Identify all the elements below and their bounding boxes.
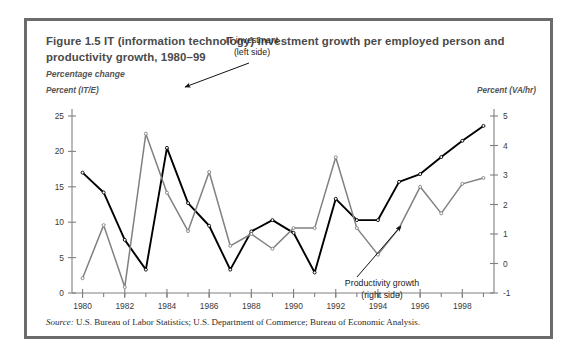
annotation-productivity-line1: Productivity growth bbox=[345, 278, 419, 288]
chart-render-group: 0510152025-10123451980198219841986198819… bbox=[55, 35, 511, 311]
left-axis-tick-label: 10 bbox=[55, 217, 65, 227]
data-point bbox=[461, 139, 464, 142]
figure-container: Figure 1.5 IT (information technology) i… bbox=[24, 18, 553, 339]
data-point bbox=[313, 271, 316, 274]
data-point bbox=[123, 286, 126, 289]
right-axis-tick-label: 5 bbox=[503, 111, 508, 121]
data-point bbox=[81, 277, 84, 280]
data-point bbox=[165, 191, 168, 194]
data-point bbox=[250, 233, 253, 236]
x-axis-tick-label: 1986 bbox=[200, 301, 219, 311]
data-point bbox=[355, 219, 358, 222]
annotation-arrow-productivity bbox=[357, 226, 401, 277]
data-point bbox=[461, 182, 464, 185]
annotation-productivity-line2: (right side) bbox=[361, 290, 403, 300]
data-point bbox=[187, 230, 190, 233]
data-point bbox=[355, 227, 358, 230]
left-axis-tick-label: 15 bbox=[55, 182, 65, 192]
data-point bbox=[419, 185, 422, 188]
x-axis-tick-label: 1982 bbox=[115, 301, 134, 311]
left-axis-tick-label: 0 bbox=[59, 288, 64, 298]
data-point bbox=[165, 146, 168, 149]
x-axis-tick-label: 1996 bbox=[411, 301, 430, 311]
annotation-it-investment-line2: (left side) bbox=[234, 47, 270, 57]
data-point bbox=[313, 227, 316, 230]
x-axis-tick-label: 1994 bbox=[369, 301, 388, 311]
data-point bbox=[229, 244, 232, 247]
right-axis-tick-label: 2 bbox=[503, 200, 508, 210]
data-point bbox=[229, 268, 232, 271]
annotation-arrow-it-investment bbox=[185, 63, 249, 87]
data-point bbox=[208, 171, 211, 174]
data-point bbox=[81, 171, 84, 174]
source-label: Source: bbox=[46, 317, 74, 327]
left-axis-tick-label: 20 bbox=[55, 146, 65, 156]
data-point bbox=[376, 219, 379, 222]
data-point bbox=[123, 238, 126, 241]
data-point bbox=[334, 197, 337, 200]
x-axis-tick-label: 1984 bbox=[158, 301, 177, 311]
data-point bbox=[292, 227, 295, 230]
source-note: Source: U.S. Bureau of Labor Statistics;… bbox=[46, 317, 420, 327]
left-axis-tick-label: 25 bbox=[55, 111, 65, 121]
x-axis-tick-label: 1980 bbox=[73, 301, 92, 311]
data-point bbox=[440, 156, 443, 159]
data-line-it-investment bbox=[83, 126, 484, 273]
data-point bbox=[292, 231, 295, 234]
left-axis-tick-label: 5 bbox=[59, 253, 64, 263]
data-point bbox=[144, 268, 147, 271]
data-point bbox=[440, 212, 443, 215]
line-chart-plot: 0510152025-10123451980198219841986198819… bbox=[27, 21, 550, 336]
right-axis-tick-label: -1 bbox=[503, 288, 511, 298]
data-point bbox=[334, 156, 337, 159]
data-point bbox=[271, 247, 274, 250]
x-axis-tick-label: 1992 bbox=[326, 301, 345, 311]
x-axis-tick-label: 1998 bbox=[453, 301, 472, 311]
data-point bbox=[208, 224, 211, 227]
right-axis-tick-label: 0 bbox=[503, 259, 508, 269]
right-axis-tick-label: 4 bbox=[503, 141, 508, 151]
data-point bbox=[482, 176, 485, 179]
data-point bbox=[419, 173, 422, 176]
data-point bbox=[482, 124, 485, 127]
data-point bbox=[144, 132, 147, 135]
source-body: U.S. Bureau of Labor Statistics; U.S. De… bbox=[74, 317, 420, 327]
x-axis-tick-label: 1990 bbox=[284, 301, 303, 311]
data-point bbox=[398, 180, 401, 183]
data-point bbox=[187, 202, 190, 205]
x-axis-tick-label: 1988 bbox=[242, 301, 261, 311]
annotation-it-investment-line1: IT investment bbox=[226, 35, 279, 45]
data-point bbox=[271, 219, 274, 222]
right-axis-tick-label: 1 bbox=[503, 229, 508, 239]
data-point bbox=[102, 191, 105, 194]
data-point bbox=[102, 224, 105, 227]
right-axis-tick-label: 3 bbox=[503, 170, 508, 180]
